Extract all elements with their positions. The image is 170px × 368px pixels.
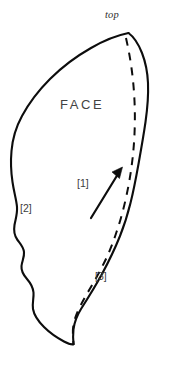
figure-canvas: top FACE [1] [2] [3] xyxy=(0,0,170,368)
face-outline-left-edge xyxy=(11,33,129,344)
direction-arrow-head xyxy=(112,167,123,179)
direction-arrow-shaft xyxy=(91,174,118,218)
label-face: FACE xyxy=(60,98,104,111)
label-top: top xyxy=(105,10,119,21)
label-annotation-3: [3] xyxy=(95,271,107,282)
label-annotation-1: [1] xyxy=(77,178,89,189)
dashed-seam-line xyxy=(73,38,135,344)
label-annotation-2: [2] xyxy=(20,203,32,214)
